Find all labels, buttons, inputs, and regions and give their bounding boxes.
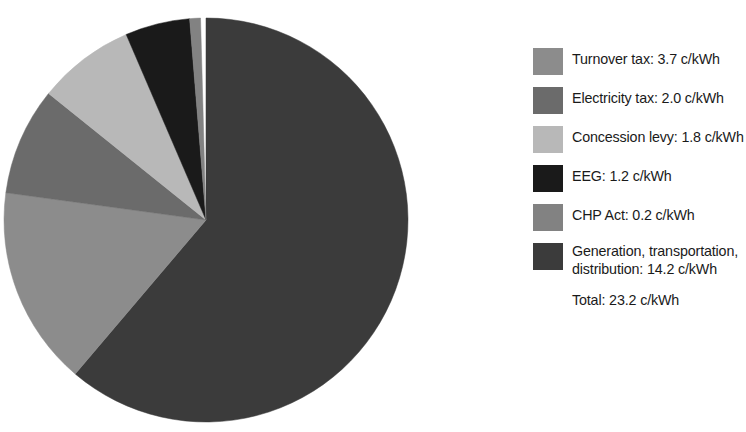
chart-legend: Turnover tax: 3.7 c/kWh Electricity tax:…: [533, 46, 746, 396]
legend-swatch-eeg: [533, 165, 563, 192]
legend-swatch-chp-act: [533, 204, 563, 231]
pie-chart-plot-area: [0, 0, 430, 432]
legend-label-turnover-tax: Turnover tax: 3.7 c/kWh: [572, 46, 720, 68]
legend-swatch-electricity-tax: [533, 87, 563, 114]
legend-label-concession-levy: Concession levy: 1.8 c/kWh: [572, 124, 744, 146]
legend-item-chp-act[interactable]: CHP Act: 0.2 c/kWh: [533, 202, 746, 231]
legend-label-chp-act: CHP Act: 0.2 c/kWh: [572, 202, 695, 224]
legend-swatch-generation: [533, 243, 563, 270]
legend-swatch-concession-levy: [533, 126, 563, 153]
legend-item-electricity-tax[interactable]: Electricity tax: 2.0 c/kWh: [533, 85, 746, 114]
legend-item-eeg[interactable]: EEG: 1.2 c/kWh: [533, 163, 746, 192]
legend-item-generation[interactable]: Generation, transportation, distribution…: [533, 241, 746, 278]
legend-label-eeg: EEG: 1.2 c/kWh: [572, 163, 672, 185]
legend-label-generation: Generation, transportation, distribution…: [572, 241, 738, 278]
legend-item-turnover-tax[interactable]: Turnover tax: 3.7 c/kWh: [533, 46, 746, 75]
legend-item-concession-levy[interactable]: Concession levy: 1.8 c/kWh: [533, 124, 746, 153]
legend-total-label: Total: 23.2 c/kWh: [572, 291, 746, 309]
pie-chart-figure: Turnover tax: 3.7 c/kWh Electricity tax:…: [0, 0, 746, 432]
legend-label-electricity-tax: Electricity tax: 2.0 c/kWh: [572, 85, 724, 107]
legend-swatch-turnover-tax: [533, 48, 563, 75]
pie-chart-svg: [0, 0, 430, 432]
pie-slice-group: [4, 18, 408, 422]
